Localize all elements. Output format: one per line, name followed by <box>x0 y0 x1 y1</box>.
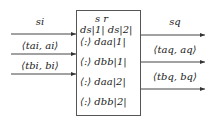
output-label-b: ⟨tbq, bq⟩ <box>145 71 205 83</box>
input-label-si: si <box>30 16 50 28</box>
box-row-4: ⟨:⟩ daa|2| <box>80 76 126 88</box>
box-row-5: ⟨:⟩ dbb|2| <box>80 96 127 108</box>
output-label-sq: sq <box>160 16 190 28</box>
input-label-a: ⟨tai, ai⟩ <box>10 40 70 52</box>
box-row-2: ⟨:⟩ daa|1| <box>80 36 126 48</box>
output-label-a: ⟨taq, aq⟩ <box>145 44 205 56</box>
box-row-3: ⟨:⟩ dbb|1| <box>80 56 127 68</box>
input-label-b: ⟨tbi, bi⟩ <box>10 60 70 72</box>
process-box: s r ds|1| ds|2| ⟨:⟩ daa|1| ⟨:⟩ dbb|1| ⟨:… <box>76 10 141 116</box>
box-row-1: ds|1| ds|2| <box>80 24 132 36</box>
